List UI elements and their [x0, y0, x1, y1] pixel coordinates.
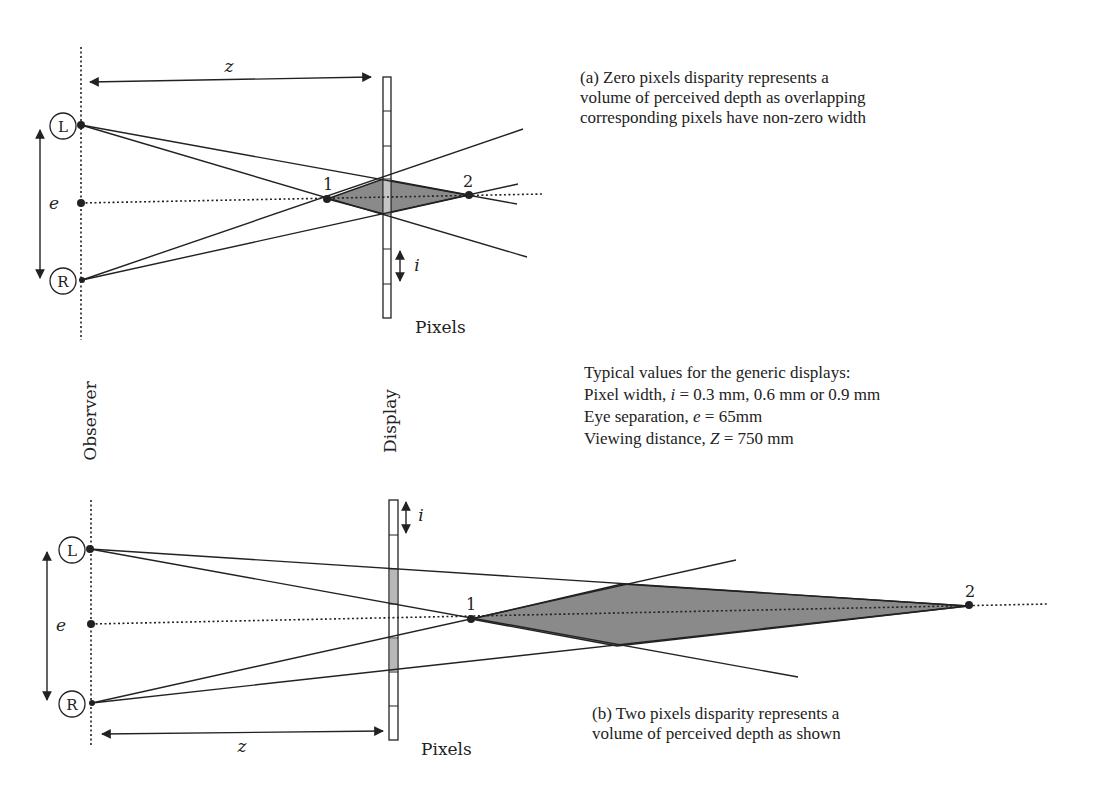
right-eye-label-b: R — [66, 696, 78, 714]
point-2-dot-b — [965, 601, 973, 609]
display-label: Display — [380, 389, 400, 453]
pixel-width-prefix: Pixel width, — [584, 385, 670, 404]
caption-a-line: (a) Zero pixels disparity represents a — [580, 68, 866, 88]
viewing-distance-line: Viewing distance, Z = 750 mm — [584, 428, 880, 450]
right-eye-dot-a — [79, 277, 85, 283]
caption-a-line: volume of perceived depth as overlapping — [580, 88, 866, 108]
e-label-b: e — [56, 615, 66, 635]
pixels-label-b: Pixels — [421, 739, 472, 759]
perceived-depth-region-a — [327, 179, 469, 214]
eye-separation-value: = 65mm — [701, 407, 763, 426]
i-label-b: i — [418, 505, 423, 525]
pixel-width-line: Pixel width, i = 0.3 mm, 0.6 mm or 0.9 m… — [584, 384, 880, 406]
z-dimension-arrow-b — [102, 731, 383, 734]
eye-separation-prefix: Eye separation, — [584, 407, 693, 426]
z-label-a: z — [224, 56, 235, 76]
point-1-label-b: 1 — [466, 595, 476, 614]
left-eye-label-b: L — [67, 542, 77, 560]
point-1-dot-b — [467, 615, 475, 623]
z-label-b: z — [237, 736, 248, 756]
caption-a: (a) Zero pixels disparity represents a v… — [580, 68, 866, 128]
left-eye-dot-a — [77, 121, 85, 129]
caption-b: (b) Two pixels disparity represents a vo… — [592, 704, 841, 744]
pixels-label-a: Pixels — [415, 317, 466, 337]
diagram-b: L R 1 2 z e i Pixels — [47, 500, 1047, 759]
right-eye-label-a: R — [57, 273, 69, 291]
caption-a-line: corresponding pixels have non-zero width — [580, 108, 866, 128]
point-2-dot-a — [465, 191, 473, 199]
typical-values-heading: Typical values for the generic displays: — [584, 362, 880, 384]
point-1-dot-a — [323, 195, 331, 203]
sight-rays-a — [81, 125, 527, 280]
observer-label: Observer — [80, 380, 100, 460]
point-2-label-a: 2 — [463, 172, 473, 191]
viewing-distance-prefix: Viewing distance, — [584, 429, 710, 448]
caption-b-line: (b) Two pixels disparity represents a — [592, 704, 841, 724]
left-eye-label-a: L — [58, 118, 68, 136]
z-dimension-arrow-a — [90, 77, 371, 82]
stereo-depth-diagram: L R 1 2 z e i Pixels Observer Display — [0, 0, 1093, 795]
eye-separation-line: Eye separation, e = 65mm — [584, 406, 880, 428]
center-dot-b — [87, 620, 95, 628]
pixel-width-value: = 0.3 mm, 0.6 mm or 0.9 mm — [675, 385, 880, 404]
typical-values-block: Typical values for the generic displays:… — [584, 362, 880, 450]
display-strip-b — [389, 500, 398, 740]
point-1-label-a: 1 — [323, 175, 333, 194]
e-label-a: e — [49, 193, 59, 213]
diagram-a: L R 1 2 z e i Pixels — [40, 47, 543, 340]
right-eye-dot-b — [89, 700, 95, 706]
viewing-distance-value: = 750 mm — [719, 429, 793, 448]
point-2-label-b: 2 — [965, 582, 975, 601]
i-label-a: i — [414, 255, 419, 275]
caption-b-line: volume of perceived depth as shown — [592, 724, 841, 744]
center-dot-a — [77, 199, 85, 207]
eye-separation-var: e — [693, 407, 701, 426]
left-eye-dot-b — [86, 545, 94, 553]
